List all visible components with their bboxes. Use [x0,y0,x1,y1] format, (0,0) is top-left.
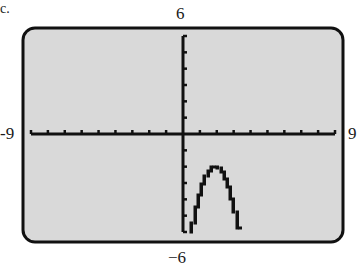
curve-pixel [216,166,220,170]
curve-pixel [220,167,224,174]
curve-pixel [223,171,227,181]
curve-pixel [229,186,233,201]
curve-pixel [197,194,201,209]
curve-pixel [236,211,240,230]
curve-pixel [213,166,217,169]
curve-pixel [200,183,204,197]
curve-pixel [226,178,230,189]
curve-pixel [194,206,198,225]
curve-pixel [210,166,214,173]
calculator-graph-screen [0,0,358,273]
curve-pixel [203,175,207,186]
curve-pixel [232,198,236,214]
curve-pixel [190,222,194,234]
curve-pixel [207,170,211,178]
curve-pixel [239,227,243,230]
